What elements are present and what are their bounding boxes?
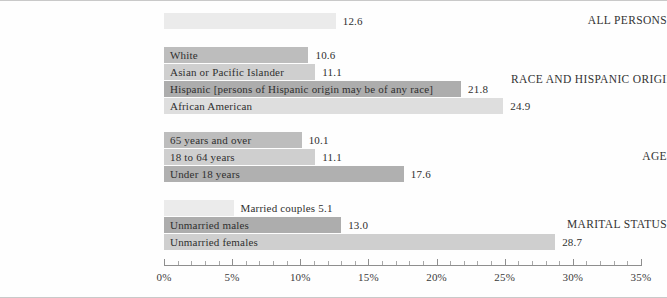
x-axis-tick-major bbox=[573, 259, 574, 266]
x-axis-tick-major bbox=[505, 259, 506, 266]
bar: Under 18 years bbox=[164, 166, 404, 182]
x-axis-tick-minor bbox=[491, 261, 492, 265]
bar-label: Unmarried females bbox=[170, 236, 258, 248]
x-axis-tick-minor bbox=[464, 261, 465, 265]
x-axis-tick-minor bbox=[259, 261, 260, 265]
x-axis-tick-minor bbox=[341, 261, 342, 265]
bar-label: Unmarried males bbox=[170, 219, 249, 231]
x-axis-tick-minor bbox=[518, 261, 519, 265]
x-axis-tick-label: 10% bbox=[290, 271, 311, 283]
x-axis-tick-label: 5% bbox=[225, 271, 240, 283]
x-axis-tick-minor bbox=[273, 261, 274, 265]
x-axis-tick-minor bbox=[614, 261, 615, 265]
bar: Unmarried males bbox=[164, 217, 341, 233]
x-axis-tick-label: 0% bbox=[156, 271, 171, 283]
bar-label: 18 to 64 years bbox=[170, 151, 235, 163]
bar-label: Under 18 years bbox=[170, 168, 240, 180]
bar: 65 years and over bbox=[164, 132, 302, 148]
x-axis-tick-minor bbox=[546, 261, 547, 265]
bar-value-label: 17.6 bbox=[411, 168, 431, 180]
bar-value-label: 11.1 bbox=[322, 66, 342, 78]
bar-label: African American bbox=[170, 100, 252, 112]
x-axis-tick-label: 30% bbox=[562, 271, 583, 283]
x-axis-tick-minor bbox=[287, 261, 288, 265]
bar-label: White bbox=[170, 49, 198, 61]
x-axis-tick-minor bbox=[477, 261, 478, 265]
x-axis-tick-minor bbox=[396, 261, 397, 265]
x-axis-tick-minor bbox=[191, 261, 192, 265]
bar-value-label: 10.1 bbox=[309, 134, 329, 146]
x-axis-line bbox=[164, 265, 641, 266]
chart-frame: ALL PERSONS12.6RACE AND HISPANIC ORIGINW… bbox=[0, 0, 667, 298]
x-axis-tick-minor bbox=[314, 261, 315, 265]
bar-label: Married couples 5.1 bbox=[241, 202, 333, 214]
x-axis-tick-minor bbox=[355, 261, 356, 265]
x-axis-tick-minor bbox=[219, 261, 220, 265]
x-axis-tick-minor bbox=[205, 261, 206, 265]
x-axis-tick-label: 25% bbox=[494, 271, 515, 283]
x-axis-tick-minor bbox=[423, 261, 424, 265]
category-label: MARITAL STATUS bbox=[511, 218, 667, 230]
x-axis-tick-major bbox=[641, 259, 642, 266]
x-axis-tick-minor bbox=[409, 261, 410, 265]
x-axis-tick-minor bbox=[586, 261, 587, 265]
x-axis-tick-minor bbox=[450, 261, 451, 265]
x-axis-tick-major bbox=[232, 259, 233, 266]
bar-value-label: 10.6 bbox=[315, 49, 335, 61]
bar: Asian or Pacific Islander bbox=[164, 64, 315, 80]
x-axis-tick-label: 15% bbox=[358, 271, 379, 283]
bar bbox=[164, 13, 336, 29]
bar-label: Hispanic [persons of Hispanic origin may… bbox=[170, 83, 433, 95]
x-axis-tick-minor bbox=[600, 261, 601, 265]
bar-value-label: 11.1 bbox=[322, 151, 342, 163]
bar-value-label: 21.8 bbox=[468, 83, 488, 95]
category-label: ALL PERSONS bbox=[511, 14, 667, 26]
x-axis-tick-major bbox=[300, 259, 301, 266]
bar-value-label: 13.0 bbox=[348, 219, 368, 231]
x-axis-tick-label: 35% bbox=[631, 271, 652, 283]
x-axis-tick-major bbox=[164, 259, 165, 266]
x-axis-tick-minor bbox=[328, 261, 329, 265]
x-axis-tick-label: 20% bbox=[426, 271, 447, 283]
bar: White bbox=[164, 47, 308, 63]
category-label: RACE AND HISPANIC ORIGIN bbox=[511, 73, 667, 85]
bar bbox=[164, 200, 234, 216]
x-axis-tick-minor bbox=[559, 261, 560, 265]
bar-label: Asian or Pacific Islander bbox=[170, 66, 284, 78]
bar-value-label: 28.7 bbox=[562, 236, 582, 248]
bar-value-label: 12.6 bbox=[343, 15, 363, 27]
x-axis-tick-minor bbox=[532, 261, 533, 265]
x-axis-tick-minor bbox=[382, 261, 383, 265]
bar: Unmarried females bbox=[164, 234, 555, 250]
x-axis-tick-major bbox=[437, 259, 438, 266]
bar: 18 to 64 years bbox=[164, 149, 315, 165]
x-axis-tick-minor bbox=[178, 261, 179, 265]
bar-label: 65 years and over bbox=[170, 134, 251, 146]
category-label: AGE bbox=[511, 150, 667, 162]
bar: Hispanic [persons of Hispanic origin may… bbox=[164, 81, 461, 97]
x-axis-tick-major bbox=[368, 259, 369, 266]
bar: African American bbox=[164, 98, 503, 114]
x-axis-tick-minor bbox=[627, 261, 628, 265]
bar-value-label: 24.9 bbox=[510, 100, 530, 112]
x-axis-tick-minor bbox=[246, 261, 247, 265]
